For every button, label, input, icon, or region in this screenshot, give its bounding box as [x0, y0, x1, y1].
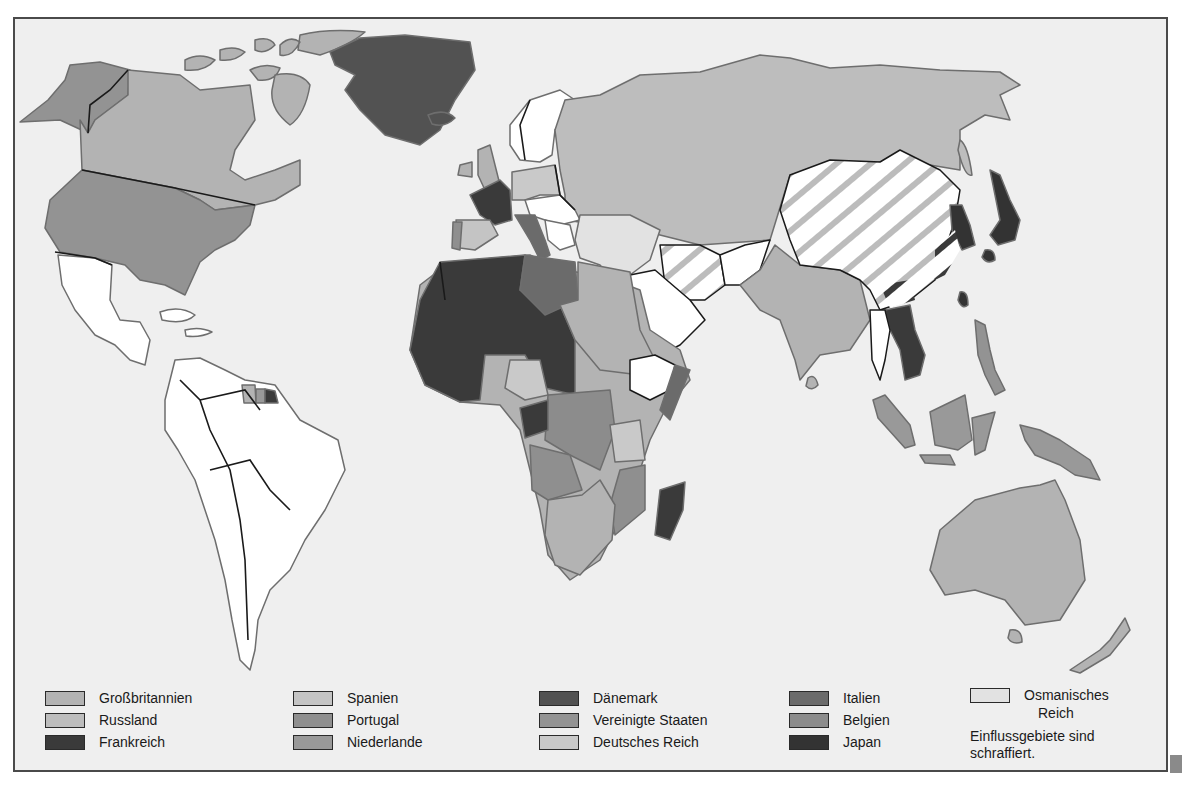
legend-label: Spanien: [347, 690, 398, 706]
region-new-guinea: [1020, 425, 1100, 480]
region-south-america: [165, 358, 345, 670]
region-france: [470, 180, 512, 225]
legend-item-vereinigte-staaten: Vereinigte Staaten: [539, 710, 707, 730]
region-portugal: [452, 222, 462, 250]
legend-label: Osmanisches Reich: [1024, 686, 1109, 722]
legend-label: Japan: [843, 734, 881, 750]
legend-item-belgien: Belgien: [789, 710, 890, 730]
legend-item-daenemark: Dänemark: [539, 688, 658, 708]
legend-label: Deutsches Reich: [593, 734, 699, 750]
legend-item-grossbritannien: Großbritannien: [45, 688, 192, 708]
region-madagascar: [655, 482, 685, 540]
legend-item-osmanisches-reich: Osmanisches Reich: [970, 686, 1109, 706]
legend-swatch: [45, 691, 85, 706]
legend-swatch: [539, 735, 579, 750]
legend-swatch: [293, 713, 333, 728]
legend-label: Frankreich: [99, 734, 165, 750]
legend-item-deutsches-reich: Deutsches Reich: [539, 732, 699, 752]
legend-swatch: [970, 688, 1010, 703]
legend-item-portugal: Portugal: [293, 710, 399, 730]
legend-item-niederlande: Niederlande: [293, 732, 423, 752]
region-balkans: [545, 220, 575, 250]
region-greenland: [330, 35, 475, 145]
region-british-guiana: [242, 385, 256, 403]
region-caribbean: [160, 309, 212, 336]
region-tasmania: [1008, 630, 1022, 643]
legend-label: Niederlande: [347, 734, 423, 750]
legend-item-japan: Japan: [789, 732, 881, 752]
legend-label: Russland: [99, 712, 157, 728]
legend-label: Portugal: [347, 712, 399, 728]
region-german-east-africa: [610, 420, 645, 462]
region-new-zealand: [1070, 618, 1130, 673]
legend-item-frankreich: Frankreich: [45, 732, 165, 752]
legend-note-line: schraffiert.: [970, 745, 1095, 762]
region-australia: [930, 480, 1085, 625]
region-taiwan: [958, 292, 968, 307]
region-siam: [870, 310, 890, 380]
region-japan: [982, 170, 1020, 262]
legend-swatch: [789, 735, 829, 750]
legend-swatch: [539, 713, 579, 728]
map-legend: Großbritannien Russland Frankreich Spani…: [45, 688, 1165, 768]
legend-swatch: [789, 713, 829, 728]
legend-item-spanien: Spanien: [293, 688, 398, 708]
legend-label: Belgien: [843, 712, 890, 728]
region-philippines: [975, 320, 1005, 395]
legend-label-line: Osmanisches: [1024, 686, 1109, 704]
legend-swatch: [789, 691, 829, 706]
region-borneo: [930, 395, 972, 450]
legend-swatch: [45, 735, 85, 750]
legend-swatch: [45, 713, 85, 728]
region-celebes: [972, 412, 995, 455]
legend-label: Dänemark: [593, 690, 658, 706]
legend-note-line: Einflussgebiete sind: [970, 728, 1095, 745]
legend-label: Vereinigte Staaten: [593, 712, 707, 728]
region-sumatra: [873, 395, 915, 448]
legend-swatch: [293, 691, 333, 706]
legend-item-russland: Russland: [45, 710, 157, 730]
legend-swatch: [293, 735, 333, 750]
legend-label-line: Reich: [1024, 704, 1109, 722]
region-indochina: [885, 305, 925, 380]
legend-swatch: [539, 691, 579, 706]
region-dutch-guiana: [256, 389, 265, 403]
legend-label: Großbritannien: [99, 690, 192, 706]
region-iceland: [428, 112, 455, 125]
region-germany: [512, 165, 560, 200]
legend-item-italien: Italien: [789, 688, 880, 708]
region-ceylon: [806, 377, 818, 389]
legend-label: Italien: [843, 690, 880, 706]
region-java: [920, 455, 955, 465]
legend-hatch-note: Einflussgebiete sind schraffiert.: [970, 728, 1095, 762]
world-map: [0, 0, 1182, 786]
